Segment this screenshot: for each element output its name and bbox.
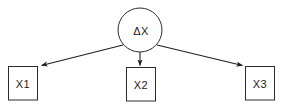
path-diagram-canvas: ΔX X1 X2 X3 — [0, 0, 282, 106]
path-diagram-svg: ΔX X1 X2 X3 — [0, 0, 282, 106]
indicator-label-x1: X1 — [16, 78, 30, 90]
path-arrow-delta-x-to-x3 — [157, 45, 243, 66]
path-arrow-delta-x-to-x1 — [42, 45, 124, 66]
indicator-label-x3: X3 — [253, 78, 267, 90]
latent-variable-label: ΔX — [133, 25, 149, 37]
indicator-label-x2: X2 — [134, 79, 148, 91]
